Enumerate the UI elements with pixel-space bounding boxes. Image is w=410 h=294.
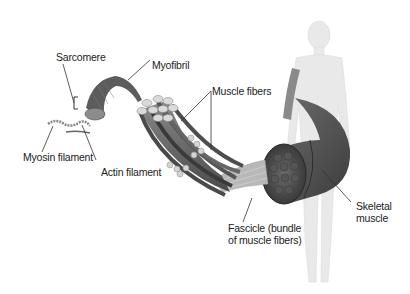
muscle-diagram: Sarcomere Myofibril Muscle fibers Myosin… bbox=[0, 0, 410, 294]
label-fascicle: Fascicle (bundle of muscle fibers) bbox=[228, 222, 302, 246]
label-fascicle-line1: Fascicle (bundle bbox=[228, 222, 302, 234]
label-myofibril: Myofibril bbox=[152, 59, 189, 71]
label-skeletal-muscle: Skeletal muscle bbox=[356, 200, 392, 224]
label-skeletal-line2: muscle bbox=[356, 212, 392, 224]
label-myosin-filament: Myosin filament bbox=[23, 151, 93, 163]
actin-filament-shape bbox=[66, 131, 90, 133]
label-sarcomere: Sarcomere bbox=[56, 51, 106, 63]
label-actin-filament: Actin filament bbox=[101, 166, 161, 178]
label-skeletal-line1: Skeletal bbox=[356, 200, 392, 212]
label-fascicle-line2: of muscle fibers) bbox=[228, 234, 302, 246]
myosin-filament-shape bbox=[48, 121, 90, 126]
label-muscle-fibers: Muscle fibers bbox=[212, 85, 271, 97]
sarcomere-bracket bbox=[74, 97, 78, 109]
diagram-illustration bbox=[0, 0, 410, 294]
